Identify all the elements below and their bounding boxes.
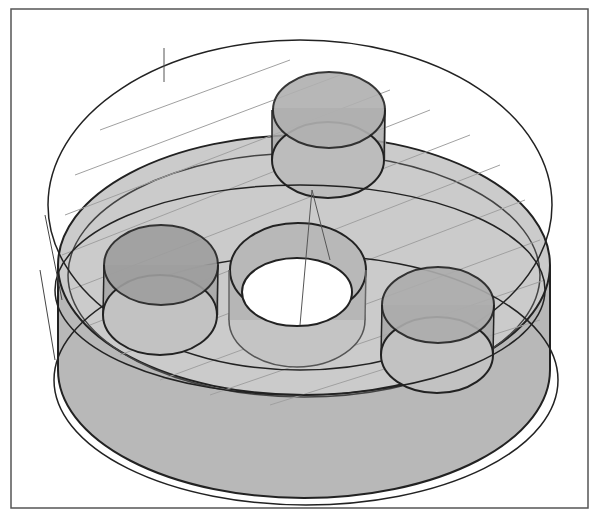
cad-scene xyxy=(0,0,599,524)
boss-top xyxy=(272,72,386,198)
boss-left xyxy=(103,225,219,355)
cad-viewport[interactable] xyxy=(0,0,599,524)
boss-right xyxy=(381,267,494,393)
